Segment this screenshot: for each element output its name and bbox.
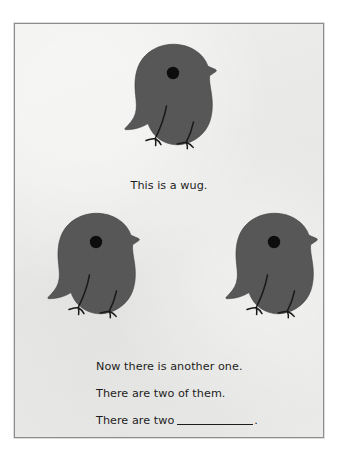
caption-this-is-a-wug: This is a wug. [131, 179, 208, 192]
wug-body-shape [125, 44, 216, 145]
wug-top [124, 43, 222, 165]
wug-bottom-right [225, 212, 323, 334]
wug-body-shape [226, 213, 317, 314]
caption-now-there-is-another-one: Now there is another one. [96, 360, 243, 373]
fill-in-blank-answer-line[interactable] [177, 414, 253, 425]
wug-left-foot-toes [69, 308, 84, 315]
fill-in-blank-suffix: . [254, 414, 258, 427]
wug-eye [90, 236, 102, 248]
caption-fill-in-blank: There are two. [96, 414, 258, 427]
caption-there-are-two-of-them: There are two of them. [96, 387, 225, 400]
page-panel: This is a wug. Now the [14, 23, 324, 438]
fill-in-blank-prefix: There are two [96, 414, 174, 427]
wug-body-shape [48, 213, 139, 314]
wug-left-foot-toes [146, 139, 161, 146]
wug-eye [167, 67, 179, 79]
wug-left-foot-toes [247, 308, 262, 315]
wug-eye [268, 236, 280, 248]
screenshot-root: This is a wug. Now the [0, 0, 338, 456]
wug-bottom-left [47, 212, 145, 334]
